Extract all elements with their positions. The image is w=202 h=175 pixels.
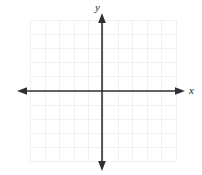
x-axis-arrow-left [17,87,27,95]
y-axis [98,13,106,171]
y-axis-arrow-down [98,161,106,171]
x-axis-label: x [189,85,194,96]
x-axis [17,87,185,95]
y-axis-label: y [95,2,100,13]
y-axis-arrow-up [98,13,106,23]
coordinate-plane: y x [0,0,202,175]
x-axis-arrow-right [175,87,185,95]
axis-layer [0,0,202,175]
